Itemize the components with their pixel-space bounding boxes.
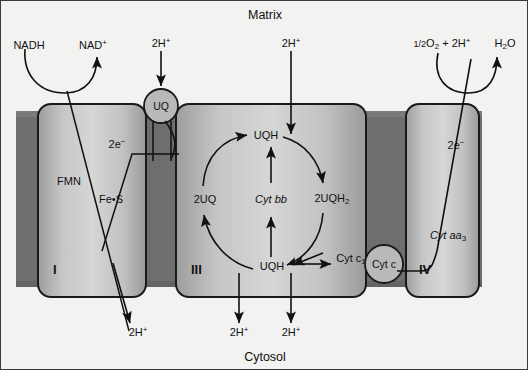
uqh2-text: 2UQH bbox=[314, 192, 345, 204]
proton-out-complex-i-label: 2H+ bbox=[129, 326, 148, 338]
oxygen-substrate-label: 1/2O2 + 2H+ bbox=[414, 37, 471, 51]
water-label: H2O bbox=[495, 38, 516, 51]
complex-iii-numeral: III bbox=[191, 263, 202, 276]
proton-out-1-text: 2H bbox=[129, 326, 143, 338]
proton-in-2-charge: + bbox=[296, 36, 301, 45]
cytc-carrier-label: Cyt c bbox=[372, 258, 396, 270]
complex-iv-electron-charge: − bbox=[460, 138, 465, 147]
complex-iv-electron-text: 2e bbox=[448, 139, 460, 151]
cytosol-label: Cytosol bbox=[244, 351, 286, 364]
water-h: H bbox=[495, 37, 503, 49]
oxygen-proton-charge: + bbox=[466, 36, 471, 45]
proton-in-2-text: 2H bbox=[282, 37, 296, 49]
proton-out-2-text: 2H bbox=[230, 326, 244, 338]
uqh-bottom-label: UQH bbox=[260, 261, 284, 272]
cyt-aa3-subscript: 3 bbox=[462, 234, 466, 243]
water-formation-arrow bbox=[437, 53, 497, 93]
oxygen-coefficient: 1/2 bbox=[414, 39, 427, 49]
complex-iv-numeral: IV bbox=[419, 263, 431, 276]
proton-out-complex-iii-left-label: 2H+ bbox=[230, 326, 249, 338]
etc-diagram-canvas: Matrix Cytosol NADH NAD+ 2H+ 2H+ 1/2O2 +… bbox=[0, 0, 528, 370]
water-o: O bbox=[507, 37, 516, 49]
nad-plus-label: NAD+ bbox=[79, 39, 107, 51]
oxygen-proton-text: + 2H bbox=[439, 37, 466, 49]
proton-in-complex-i-label: 2H+ bbox=[152, 37, 171, 49]
proton-in-complex-iii-label: 2H+ bbox=[282, 37, 301, 49]
uqh2-right-label: 2UQH2 bbox=[314, 193, 349, 206]
cyt-bb-label: Cyt bb bbox=[255, 194, 287, 205]
complex-iv-electron-label: 2e− bbox=[448, 139, 465, 151]
fes-label: Fe•S bbox=[99, 194, 123, 205]
complex-iv-body bbox=[406, 104, 479, 297]
fmn-label: FMN bbox=[57, 176, 81, 187]
complex-i-electron-charge: − bbox=[121, 137, 126, 146]
nad-plus-text: NAD bbox=[79, 39, 102, 51]
matrix-label: Matrix bbox=[248, 9, 282, 22]
uqh-top-label: UQH bbox=[254, 130, 278, 141]
nadh-label: NADH bbox=[13, 40, 44, 51]
complex-i-numeral: I bbox=[53, 263, 57, 276]
proton-in-1-text: 2H bbox=[152, 37, 166, 49]
cyt-c1-label: Cyt c1 bbox=[336, 253, 366, 266]
oxygen-symbol: O bbox=[426, 37, 435, 49]
nad-plus-charge: + bbox=[102, 38, 107, 47]
complex-i-electron-text: 2e bbox=[109, 138, 121, 150]
cyt-aa3-text: Cyt aa bbox=[430, 229, 462, 241]
uq-left-label: 2UQ bbox=[194, 194, 217, 205]
proton-out-3-text: 2H bbox=[282, 326, 296, 338]
cyt-c1-subscript: 1 bbox=[361, 257, 365, 266]
complex-i-electron-label: 2e− bbox=[109, 138, 126, 150]
proton-out-complex-iii-right-label: 2H+ bbox=[282, 326, 301, 338]
uq-carrier-label: UQ bbox=[153, 100, 169, 112]
cyt-c1-text: Cyt c bbox=[336, 252, 361, 264]
nadh-oxidation-arrow bbox=[25, 49, 97, 93]
uqh2-subscript: 2 bbox=[345, 197, 349, 206]
proton-in-1-charge: + bbox=[166, 36, 171, 45]
cyt-aa3-label: Cyt aa3 bbox=[430, 230, 466, 243]
proton-out-2-charge: + bbox=[244, 325, 249, 334]
proton-out-3-charge: + bbox=[296, 325, 301, 334]
proton-out-1-charge: + bbox=[143, 325, 148, 334]
